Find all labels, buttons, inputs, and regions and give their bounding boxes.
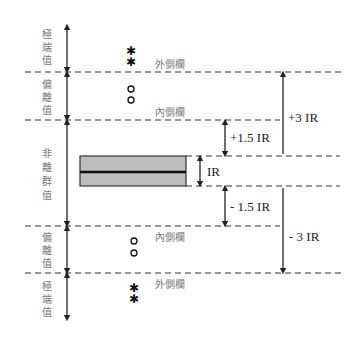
label-extreme-bottom: 極 端 值 <box>42 280 52 318</box>
svg-text:端: 端 <box>42 293 52 305</box>
label-outlier-top: 偏 離 值 <box>42 78 52 116</box>
fence-label-inner-bottom: 內側欄 <box>155 231 185 243</box>
svg-text:極: 極 <box>42 280 52 292</box>
svg-text:值: 值 <box>42 189 52 201</box>
svg-text:極: 極 <box>42 28 52 40</box>
outlier-marker-icon <box>128 86 134 92</box>
svg-text:值: 值 <box>42 104 52 116</box>
fence-label-inner-top: 內側欄 <box>155 106 185 118</box>
svg-text:值: 值 <box>42 257 52 269</box>
label-extreme-top: 極 端 值 <box>42 28 52 66</box>
svg-text:非: 非 <box>42 148 52 159</box>
svg-text:離: 離 <box>42 161 52 173</box>
extreme-marker-icon: ✱ <box>129 292 139 306</box>
outlier-marker-icon <box>131 238 137 244</box>
boxplot-diagram: 極 端 值 偏 離 值 非 離 群 值 偏 離 值 極 端 值 ✱ ✱ ✱ ✱ … <box>0 0 357 340</box>
fence-label-outer-top: 外側欄 <box>155 58 185 70</box>
svg-text:值: 值 <box>42 306 52 318</box>
outlier-marker-icon <box>128 97 134 103</box>
ir-label: IR <box>207 164 220 179</box>
svg-text:群: 群 <box>42 175 52 187</box>
svg-text:值: 值 <box>42 54 52 66</box>
plus-3-ir-label: +3 IR <box>288 110 318 125</box>
minus-1-5-ir-label: - 1.5 IR <box>230 199 270 214</box>
svg-text:離: 離 <box>42 244 52 256</box>
svg-text:離: 離 <box>42 91 52 103</box>
svg-text:偏: 偏 <box>42 231 52 243</box>
extreme-marker-icon: ✱ <box>126 55 136 69</box>
outlier-marker-icon <box>131 250 137 256</box>
label-outlier-bottom: 偏 離 值 <box>42 231 52 269</box>
svg-text:偏: 偏 <box>42 78 52 90</box>
fence-label-outer-bottom: 外側欄 <box>155 278 185 290</box>
plus-1-5-ir-label: +1.5 IR <box>230 130 270 145</box>
svg-text:端: 端 <box>42 41 52 53</box>
minus-3-ir-label: - 3 IR <box>289 229 320 244</box>
label-non-outlier: 非 離 群 值 <box>42 148 52 201</box>
